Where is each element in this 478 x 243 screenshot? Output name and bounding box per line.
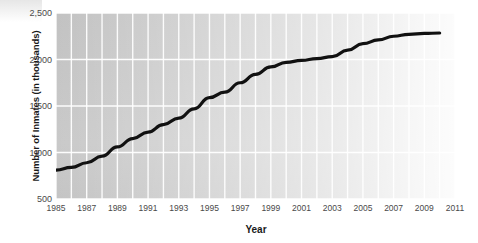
plot-area [56,13,455,199]
x-axis-title: Year [56,224,456,235]
y-tick-label: 2,000 [6,55,52,65]
plot-svg [56,13,455,199]
chart-figure: Number of Inmates (in thousands) 2,5002,… [0,0,478,243]
x-tick-label: 2011 [435,203,475,214]
data-line-series-inmates [56,33,440,170]
y-tick-label: 1,500 [6,101,52,111]
x-axis-tick-labels: 1985198719891991199319951997199920012003… [0,203,478,217]
y-tick-label: 2,500 [6,8,52,18]
y-tick-label: 1,000 [6,148,52,158]
